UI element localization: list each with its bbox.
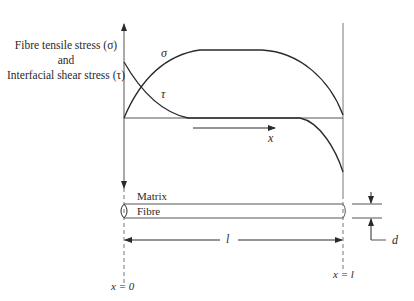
matrix-label: Matrix [137, 190, 167, 202]
sigma-curve [124, 50, 343, 118]
fibre-label: Fibre [137, 205, 160, 217]
sigma-label: σ [161, 46, 167, 61]
fibre-stress-diagram: Fibre tensile stress (σ) and Interfacial… [0, 0, 414, 301]
x-start-label: x = 0 [111, 280, 134, 292]
diameter-label: d [392, 233, 398, 248]
length-label: l [226, 232, 229, 247]
diameter-dimension [352, 192, 386, 240]
y-axis-label-line2: and [0, 53, 132, 68]
tau-curve [124, 62, 343, 172]
y-axis-label: Fibre tensile stress (σ) and Interfacial… [0, 38, 132, 83]
x-end-label: x = l [333, 268, 354, 280]
y-axis-label-line1: Fibre tensile stress (σ) [0, 38, 132, 53]
x-direction-label: x [268, 131, 273, 146]
tau-label: τ [161, 87, 165, 102]
y-axis-label-line3: Interfacial shear stress (τ) [0, 68, 132, 83]
